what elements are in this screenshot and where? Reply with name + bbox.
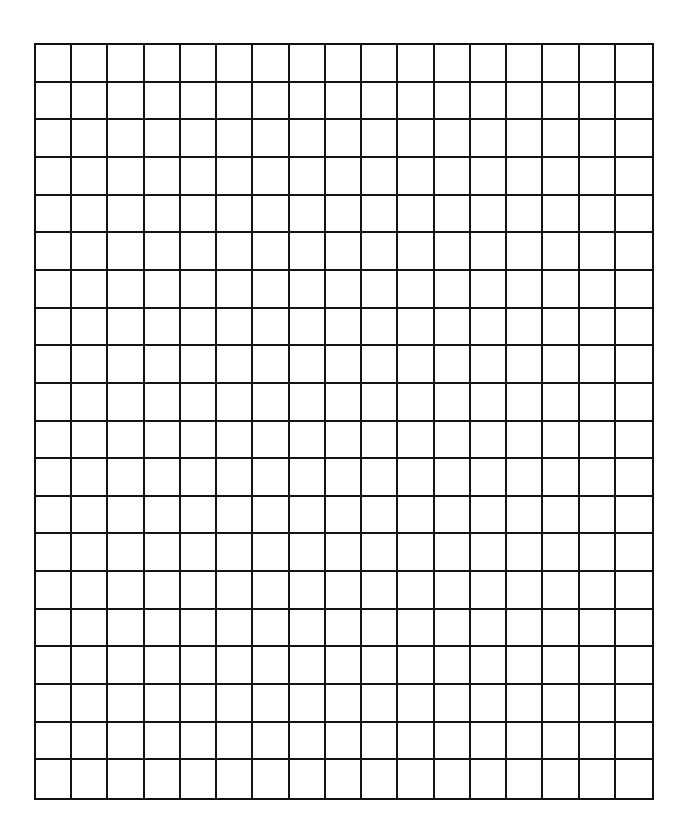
grid-cell xyxy=(253,572,289,610)
grid-cell xyxy=(326,120,362,158)
grid-cell xyxy=(398,346,434,384)
grid-cell xyxy=(471,120,507,158)
grid-cell xyxy=(145,723,181,761)
grid-cell xyxy=(253,196,289,234)
grid-cell xyxy=(181,271,217,309)
grid-cell xyxy=(507,233,543,271)
grid-cell xyxy=(290,459,326,497)
grid-cell xyxy=(507,83,543,121)
grid-cell xyxy=(616,384,652,422)
grid-cell xyxy=(616,346,652,384)
grid-cell xyxy=(543,610,579,648)
grid-cell xyxy=(435,723,471,761)
grid-cell xyxy=(290,497,326,535)
grid-cell xyxy=(217,647,253,685)
grid-cell xyxy=(362,760,398,798)
grid-cell xyxy=(543,83,579,121)
grid-cell xyxy=(72,647,108,685)
grid-cell xyxy=(543,647,579,685)
grid-cell xyxy=(36,610,72,648)
grid-cell xyxy=(72,497,108,535)
grid-cell xyxy=(398,760,434,798)
grid-cell xyxy=(580,459,616,497)
grid-cell xyxy=(398,158,434,196)
grid-cell xyxy=(435,497,471,535)
grid-cell xyxy=(507,760,543,798)
grid-cell xyxy=(145,459,181,497)
grid-cell xyxy=(326,723,362,761)
grid-cell xyxy=(398,534,434,572)
grid-cell xyxy=(253,233,289,271)
grid-cell xyxy=(543,346,579,384)
grid-cell xyxy=(580,384,616,422)
grid-cell xyxy=(362,120,398,158)
grid-cell xyxy=(217,346,253,384)
grid-cell xyxy=(72,610,108,648)
grid-cell xyxy=(36,83,72,121)
grid-cell xyxy=(362,497,398,535)
grid-cell xyxy=(145,422,181,460)
grid-cell xyxy=(616,610,652,648)
grid-cell xyxy=(471,346,507,384)
grid-cell xyxy=(36,384,72,422)
grid-cell xyxy=(290,158,326,196)
grid-cell xyxy=(217,233,253,271)
grid-cell xyxy=(108,83,144,121)
grid-cell xyxy=(36,120,72,158)
grid-cell xyxy=(108,685,144,723)
grid-cell xyxy=(253,534,289,572)
grid-cell xyxy=(616,459,652,497)
grid-cell xyxy=(181,534,217,572)
grid-cell xyxy=(290,196,326,234)
grid-cell xyxy=(362,459,398,497)
grid-cell xyxy=(108,647,144,685)
grid-cell xyxy=(507,384,543,422)
grid-cell xyxy=(145,271,181,309)
grid-cell xyxy=(181,384,217,422)
grid-cell xyxy=(616,83,652,121)
grid-cell xyxy=(290,233,326,271)
grid-cell xyxy=(145,233,181,271)
grid-cell xyxy=(181,158,217,196)
grid-cell xyxy=(290,384,326,422)
grid-cell xyxy=(398,45,434,83)
grid-cell xyxy=(580,346,616,384)
grid-cell xyxy=(326,572,362,610)
grid-cell xyxy=(471,384,507,422)
grid-cell xyxy=(326,196,362,234)
graph-paper-grid xyxy=(34,43,654,800)
grid-cell xyxy=(181,647,217,685)
grid-cell xyxy=(398,572,434,610)
grid-cell xyxy=(507,723,543,761)
grid-cell xyxy=(253,422,289,460)
grid-cell xyxy=(543,422,579,460)
grid-cell xyxy=(616,534,652,572)
grid-cell xyxy=(435,233,471,271)
grid-cell xyxy=(507,422,543,460)
grid-cell xyxy=(435,158,471,196)
grid-cell xyxy=(36,233,72,271)
grid-cell xyxy=(145,120,181,158)
grid-cell xyxy=(326,309,362,347)
grid-cell xyxy=(435,760,471,798)
grid-cell xyxy=(435,572,471,610)
grid-cell xyxy=(181,723,217,761)
grid-cell xyxy=(435,45,471,83)
grid-cell xyxy=(580,120,616,158)
grid-cell xyxy=(108,610,144,648)
grid-cell xyxy=(36,158,72,196)
grid-cell xyxy=(507,647,543,685)
grid-cell xyxy=(108,422,144,460)
grid-cell xyxy=(217,534,253,572)
grid-cell xyxy=(435,610,471,648)
grid-cell xyxy=(398,233,434,271)
grid-cell xyxy=(36,196,72,234)
grid-cell xyxy=(181,196,217,234)
grid-cell xyxy=(108,497,144,535)
grid-cell xyxy=(326,384,362,422)
grid-cell xyxy=(543,760,579,798)
grid-cell xyxy=(580,647,616,685)
grid-cell xyxy=(507,459,543,497)
grid-cell xyxy=(108,196,144,234)
grid-cell xyxy=(398,685,434,723)
